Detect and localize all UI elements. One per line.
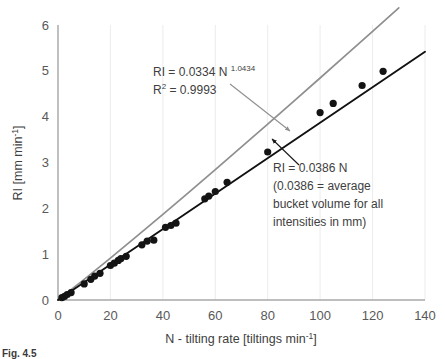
- data-point: [68, 289, 75, 296]
- linear-annotation-line2: (0.0386 = average: [273, 179, 371, 193]
- x-tick-40: 40: [156, 308, 170, 323]
- y-tick-0: 0: [42, 293, 49, 308]
- linear-annotation-line3: bucket volume for all: [273, 197, 383, 211]
- data-point: [205, 193, 212, 200]
- chart-canvas: 6 5 4 3 2 1 0 0 20 40 60 80 100 120 140 …: [0, 0, 445, 359]
- power-annotation-equation: RI = 0.0334 N: [153, 65, 231, 79]
- x-tick-120: 120: [362, 308, 384, 323]
- r-squared-symbol: R: [153, 83, 162, 97]
- y-tick-3: 3: [42, 155, 49, 170]
- power-annotation-leader-arrow: [230, 84, 290, 131]
- x-axis-title: N - tilting rate [tiltings min-1]: [165, 331, 316, 346]
- x-tick-0: 0: [54, 308, 61, 323]
- data-point: [264, 148, 271, 155]
- data-point: [96, 270, 103, 277]
- y-axis-title: RI [mm min-1]: [10, 126, 25, 201]
- x-tick-60: 60: [208, 308, 222, 323]
- data-point: [359, 82, 366, 89]
- linear-annotation-line4: intensities in mm): [273, 215, 366, 229]
- x-tick-100: 100: [309, 308, 331, 323]
- figure-caption: Fig. 4.5: [2, 348, 37, 359]
- data-point: [224, 179, 231, 186]
- figure-container: 6 5 4 3 2 1 0 0 20 40 60 80 100 120 140 …: [0, 0, 445, 359]
- data-point: [123, 253, 130, 260]
- linear-annotation: RI = 0.0386 N (0.0386 = average bucket v…: [273, 161, 383, 229]
- y-tick-labels: 6 5 4 3 2 1 0: [42, 18, 49, 308]
- data-point: [317, 109, 324, 116]
- y-tick-6: 6: [42, 18, 49, 33]
- r-squared-value: = 0.9993: [166, 83, 217, 97]
- data-point: [330, 100, 337, 107]
- x-tick-140: 140: [414, 308, 436, 323]
- y-tick-4: 4: [42, 109, 49, 124]
- data-point: [150, 237, 157, 244]
- x-tick-80: 80: [260, 308, 274, 323]
- power-fit-curve: [58, 8, 399, 300]
- x-tick-20: 20: [103, 308, 117, 323]
- power-annotation-exponent: 1.0434: [231, 64, 256, 73]
- y-axis-title-tail: ]: [11, 126, 25, 129]
- y-tick-5: 5: [42, 63, 49, 78]
- data-point: [380, 68, 387, 75]
- y-axis-title-main: RI [mm min: [11, 137, 25, 201]
- power-annotation-line1: RI = 0.0334 N 1.0434: [153, 64, 256, 79]
- x-axis-title-tail: ]: [313, 332, 316, 346]
- y-tick-1: 1: [42, 247, 49, 262]
- linear-annotation-line1: RI = 0.0386 N: [273, 161, 347, 175]
- data-point: [144, 238, 151, 245]
- y-tick-2: 2: [42, 201, 49, 216]
- data-point: [172, 220, 179, 227]
- data-point: [81, 280, 88, 287]
- data-point: [212, 188, 219, 195]
- x-axis-title-main: N - tilting rate [tiltings min: [165, 332, 305, 346]
- x-tick-labels: 0 20 40 60 80 100 120 140: [54, 308, 435, 323]
